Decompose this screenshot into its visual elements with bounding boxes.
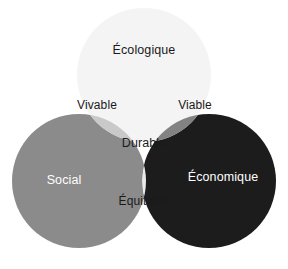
venn-diagram-graphic <box>0 0 288 269</box>
venn-diagram: Écologique Social Économique Vivable Via… <box>0 0 288 269</box>
